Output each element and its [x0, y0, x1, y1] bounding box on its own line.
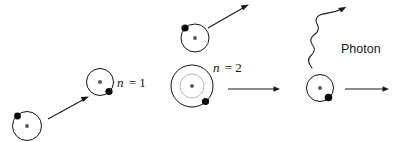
deflected-atom: [181, 24, 209, 52]
atomic-transition-diagram: n = 1 n = 2: [0, 0, 396, 142]
approach-arrow-head: [81, 97, 89, 103]
ground-state-atom-nucleus: [98, 80, 102, 84]
excited-state-label-value: = 2: [225, 60, 242, 75]
ground-state-atom: [87, 69, 114, 96]
diagram-canvas: n = 1 n = 2: [0, 0, 396, 142]
deflected-atom-electron: [181, 24, 188, 31]
exit-arrow-head: [383, 86, 390, 92]
relaxed-atom: [307, 75, 334, 102]
incoming-atom: [13, 112, 42, 141]
excited-state-atom-electron: [202, 98, 209, 105]
ground-state-label: n = 1: [117, 75, 146, 90]
photon-arrow-head: [338, 7, 346, 13]
excited-state-atom: [171, 65, 213, 107]
photon-emission: Photon: [309, 7, 381, 68]
photon-wave-path: [309, 9, 343, 69]
scatter-arrow-head: [241, 5, 249, 11]
approach-arrow: [48, 97, 89, 120]
exit-arrow: [345, 86, 389, 92]
relaxed-atom-electron: [325, 94, 333, 102]
excited-state-label-symbol: n: [213, 60, 220, 75]
deflected-atom-nucleus: [193, 36, 197, 40]
excited-state-atom-nucleus: [190, 84, 194, 88]
transit-arrow: [228, 86, 280, 92]
excited-state-label: n = 2: [213, 60, 242, 75]
approach-arrow-shaft: [48, 98, 86, 119]
relaxed-atom-nucleus: [318, 86, 322, 90]
incoming-atom-nucleus: [25, 124, 29, 128]
ground-state-atom-electron: [105, 88, 112, 95]
transit-arrow-head: [274, 86, 281, 92]
scatter-arrow: [208, 5, 249, 28]
ground-state-label-value: = 1: [129, 75, 146, 90]
ground-state-label-symbol: n: [117, 75, 124, 90]
scatter-arrow-shaft: [208, 7, 246, 28]
photon-label: Photon: [341, 42, 381, 56]
incoming-atom-electron: [14, 113, 21, 120]
